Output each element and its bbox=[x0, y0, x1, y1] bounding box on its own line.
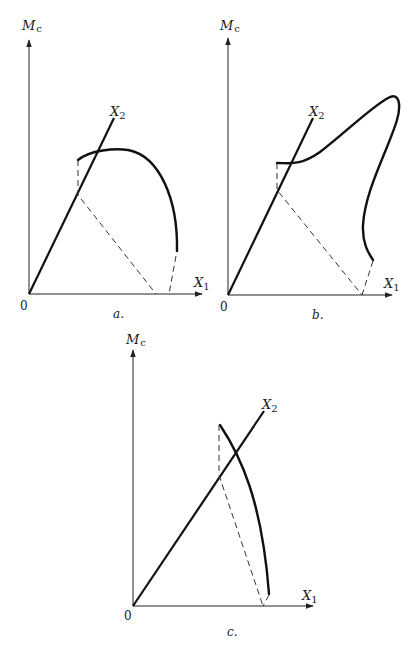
response-curve bbox=[78, 149, 177, 251]
projection-dashed-end bbox=[263, 595, 269, 606]
projection-dashed bbox=[277, 163, 362, 295]
x1-label: X1 bbox=[301, 588, 318, 605]
origin-label: 0 bbox=[220, 300, 228, 314]
x2-label: X2 bbox=[261, 397, 278, 414]
response-curve bbox=[220, 425, 269, 594]
origin-label: 0 bbox=[124, 609, 132, 623]
panel-caption: b. bbox=[312, 308, 324, 322]
x2-axis bbox=[29, 118, 114, 294]
projection-dashed-end bbox=[169, 256, 176, 294]
x1-label: X1 bbox=[193, 275, 210, 292]
panel-a: Mc X2 X1 0 a. bbox=[20, 18, 210, 321]
panel-caption: c. bbox=[227, 625, 238, 639]
projection-dashed-end bbox=[362, 261, 373, 295]
response-curve bbox=[277, 96, 399, 260]
x2-label: X2 bbox=[308, 104, 325, 121]
origin-label: 0 bbox=[20, 299, 28, 313]
x1-label: X1 bbox=[383, 276, 400, 293]
mc-label: Mc bbox=[125, 332, 146, 348]
projection-dashed bbox=[78, 160, 156, 294]
panel-c: Mc X2 X1 0 c. bbox=[124, 332, 318, 639]
mc-label: Mc bbox=[21, 18, 42, 34]
figure-canvas: Mc X2 X1 0 a. Mc X2 X1 0 b. Mc X2 X1 0 c… bbox=[0, 0, 416, 660]
panel-b: Mc X2 X1 0 b. bbox=[219, 18, 400, 322]
x2-label: X2 bbox=[109, 104, 126, 121]
panel-caption: a. bbox=[113, 307, 124, 321]
x2-axis bbox=[133, 411, 264, 606]
mc-label: Mc bbox=[219, 18, 240, 34]
x2-axis bbox=[228, 118, 313, 295]
projection-dashed bbox=[219, 425, 263, 606]
